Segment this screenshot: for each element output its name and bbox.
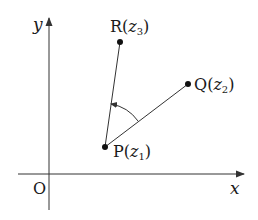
point-r-name: R xyxy=(110,17,123,36)
y-axis-label: y xyxy=(32,14,43,34)
rotation-angle-arc xyxy=(111,104,138,121)
origin-label: O xyxy=(33,179,46,198)
point-r-label: R(z3) xyxy=(110,17,149,37)
x-axis-label: x xyxy=(230,178,240,198)
point-p-name: P xyxy=(113,142,124,161)
point-q-name: Q xyxy=(194,75,207,94)
point-q-label: Q(z2) xyxy=(194,75,234,95)
segment-pr xyxy=(105,42,120,147)
complex-plane-diagram: y x O R(z3) Q(z2) P(z1) xyxy=(0,0,258,220)
point-r-dot xyxy=(117,39,123,45)
point-q-dot xyxy=(185,81,191,87)
point-p-label: P(z1) xyxy=(113,142,151,162)
segment-pq xyxy=(105,84,188,147)
point-p-dot xyxy=(102,144,108,150)
